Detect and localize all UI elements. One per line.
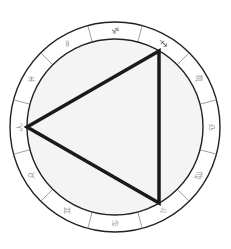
aries-glyph-icon: ♈ <box>14 123 24 132</box>
aquarius-glyph-icon: ♒ <box>62 39 72 47</box>
gemini-glyph-icon: ♊ <box>62 207 72 215</box>
zodiac-wheel: ♈♉♊♋♌♍♎♏♐♑♒♓ <box>0 0 231 249</box>
taurus-glyph-icon: ♉ <box>26 171 36 179</box>
leo-glyph-icon: ♌ <box>158 207 168 215</box>
capricorn-glyph-icon: ♑ <box>110 26 120 34</box>
sagittarius-glyph-icon: ♐ <box>158 39 168 47</box>
scorpio-glyph-icon: ♏ <box>194 75 204 83</box>
libra-glyph-icon: ♎ <box>207 123 217 131</box>
inner-ring <box>27 39 203 215</box>
pisces-glyph-icon: ♓ <box>26 75 36 83</box>
cancer-glyph-icon: ♋ <box>110 219 120 227</box>
virgo-glyph-icon: ♍ <box>194 171 204 179</box>
